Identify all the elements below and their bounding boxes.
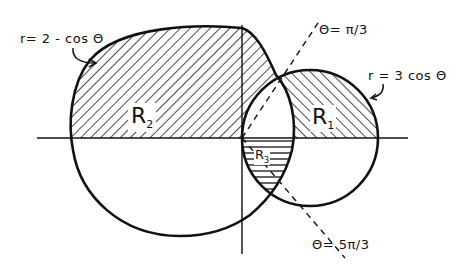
region-R1-label: R1 bbox=[310, 105, 336, 132]
region-R1-letter: R bbox=[312, 104, 327, 129]
region-R2-letter: R bbox=[131, 103, 146, 128]
limacon-label: r= 2 - cos Θ bbox=[20, 32, 104, 45]
region-R3-sub: 3 bbox=[264, 156, 269, 165]
region-R3-letter: R bbox=[255, 147, 264, 162]
region-R3-label: R3 bbox=[254, 148, 270, 165]
circle-label: r = 3 cos Θ bbox=[368, 69, 447, 82]
region-R1-sub: 1 bbox=[327, 119, 334, 132]
ray-pi-3-label: Θ= π/3 bbox=[319, 23, 368, 36]
ray-5pi-3-label: Θ= 5π/3 bbox=[312, 238, 370, 251]
region-R2-label: R2 bbox=[128, 103, 156, 132]
region-R2-sub: 2 bbox=[146, 118, 153, 131]
